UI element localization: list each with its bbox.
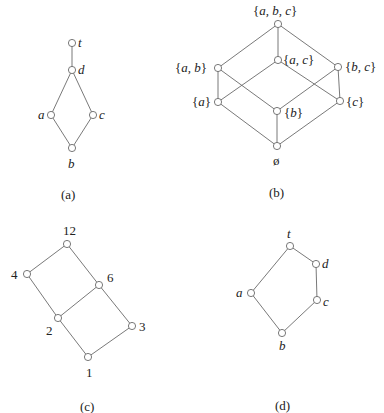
edge-d-a <box>51 70 72 115</box>
label-abc: {a, b, c} <box>253 3 297 18</box>
edge-a-b <box>251 293 282 333</box>
node-4 <box>23 270 30 277</box>
label-empty: ø <box>273 153 280 168</box>
node-a <box>47 111 54 118</box>
node-b <box>273 107 280 114</box>
label-d: d <box>78 62 85 77</box>
edge-t-a <box>251 246 290 293</box>
node-1 <box>84 353 91 360</box>
edge-a-empty <box>218 102 277 146</box>
edge-c-b <box>282 300 317 333</box>
edge-12-4 <box>27 244 67 274</box>
hasse-diagrams-figure: t d a c b (a) {a, b, c} {a, b} {a, c} {b… <box>0 0 384 413</box>
label-t: t <box>287 226 291 241</box>
node-b <box>68 144 75 151</box>
node-a <box>214 98 221 105</box>
node-ac <box>274 56 281 63</box>
node-ab <box>214 64 221 71</box>
node-b <box>278 329 285 336</box>
label-a: a <box>236 285 243 300</box>
label-a: {a} <box>192 94 211 109</box>
label-t: t <box>78 35 82 50</box>
edge-ab-b <box>218 68 277 111</box>
node-t <box>68 39 75 46</box>
label-c: c <box>99 107 105 122</box>
edge-d-c <box>316 264 317 300</box>
edge-12-6 <box>67 244 99 285</box>
node-empty <box>273 142 280 149</box>
label-4: 4 <box>11 267 18 282</box>
diagram-d: t d a c b (d) <box>236 226 329 413</box>
node-6 <box>95 281 102 288</box>
node-c <box>89 111 96 118</box>
label-2: 2 <box>46 323 53 338</box>
label-6: 6 <box>107 270 114 285</box>
edge-6-2 <box>58 285 99 318</box>
label-ab: {a, b} <box>175 60 207 75</box>
caption-a: (a) <box>61 187 75 202</box>
edge-ac-a <box>218 60 278 102</box>
node-bc <box>334 63 341 70</box>
label-ac: {a, c} <box>283 52 314 67</box>
node-d <box>312 260 319 267</box>
node-12 <box>63 240 70 247</box>
caption-b: (b) <box>269 185 284 200</box>
label-c: c <box>323 294 329 309</box>
label-b: {b} <box>284 105 303 120</box>
edge-bc-c <box>338 67 340 101</box>
node-d <box>68 66 75 73</box>
edge-4-2 <box>27 274 58 318</box>
node-2 <box>54 314 61 321</box>
node-a <box>247 289 254 296</box>
label-a: a <box>38 107 45 122</box>
label-c: {c} <box>346 94 364 109</box>
label-d: d <box>322 256 329 271</box>
edge-3-1 <box>88 326 132 357</box>
node-c <box>336 97 343 104</box>
node-3 <box>128 322 135 329</box>
diagram-a: t d a c b (a) <box>38 35 105 202</box>
caption-c: (c) <box>80 399 94 413</box>
edge-c-b <box>72 115 93 148</box>
label-bc: {b, c} <box>345 59 376 74</box>
edge-6-3 <box>99 285 132 326</box>
node-c <box>313 296 320 303</box>
diagram-c: 12 4 6 2 3 1 (c) <box>11 223 146 413</box>
label-3: 3 <box>139 319 146 334</box>
label-b: b <box>279 338 286 353</box>
label-b: b <box>68 156 75 171</box>
label-1: 1 <box>86 365 93 380</box>
edge-abc-ab <box>218 24 278 68</box>
node-abc <box>274 20 281 27</box>
diagram-b: {a, b, c} {a, b} {a, c} {b, c} {a} {b} {… <box>175 3 376 200</box>
label-12: 12 <box>63 223 76 238</box>
caption-d: (d) <box>275 398 290 413</box>
edge-2-1 <box>58 318 88 357</box>
edge-a-b <box>51 115 72 148</box>
node-t <box>286 242 293 249</box>
edge-t-d <box>290 246 316 264</box>
